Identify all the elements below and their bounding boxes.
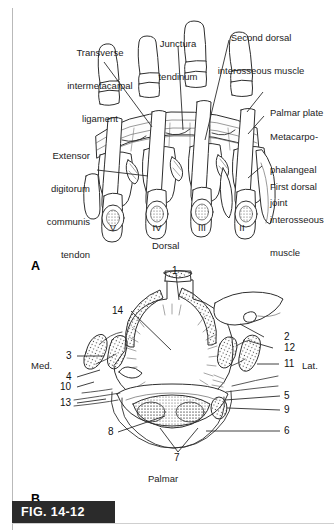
medial-fascia-strands (74, 389, 120, 406)
label-line: interosseous muscle (196, 65, 326, 76)
digit-numeral-v: V (106, 222, 120, 233)
callout-7: 7 (174, 452, 180, 463)
orientation-medial: Med. (31, 360, 52, 371)
second-dorsal-interosseous-muscle-shape (220, 168, 232, 218)
label-line: First dorsal (270, 181, 334, 192)
label-first-dorsal-interosseous-muscle: First dorsal interosseous muscle (270, 159, 334, 280)
callout-3: 3 (66, 350, 72, 361)
orientation-lateral: Lat. (302, 360, 318, 371)
callout-10: 10 (60, 381, 71, 392)
digit-numeral-iii: III (192, 222, 212, 233)
callout-14: 14 (112, 305, 123, 316)
label-line: Transverse (42, 47, 158, 58)
lateral-fascia-strand (226, 376, 278, 392)
callout-5: 5 (284, 390, 290, 401)
callout-8: 8 (108, 426, 114, 437)
leader-7-left (160, 428, 178, 452)
callout-13: 13 (60, 397, 71, 408)
panel-letter-a: A (31, 259, 40, 273)
figure-page: Transverse intermetacarpal ligament Junc… (0, 0, 334, 530)
leader-4 (77, 370, 100, 377)
caption-underline (12, 523, 334, 524)
figure-caption-bar: FIG. 14-12 (12, 501, 115, 523)
figure-number: FIG. 14-12 (12, 501, 115, 519)
bone-shaft-stump (164, 271, 192, 283)
label-line: Metacarpo- (270, 131, 334, 142)
digit-numeral-iv: IV (148, 222, 166, 233)
label-line: digitorum (12, 183, 90, 194)
label-line: tendon (12, 249, 90, 260)
callout-12: 12 (284, 342, 295, 353)
label-line: Second dorsal (196, 32, 326, 43)
lateral-muscle-mass (214, 292, 283, 325)
leader-10 (77, 382, 94, 387)
callout-6: 6 (284, 425, 290, 436)
orientation-palmar: Palmar (148, 473, 178, 484)
label-line: communis (12, 216, 90, 227)
callout-9: 9 (284, 404, 290, 415)
label-line: Extensor (12, 150, 90, 161)
orientation-dorsal: Dorsal (152, 240, 179, 251)
callout-11: 11 (284, 358, 294, 369)
leader-9 (228, 408, 280, 410)
label-line: muscle (270, 247, 334, 258)
lateral-sesamoid (211, 397, 227, 419)
label-line: ligament (42, 113, 158, 124)
label-line: intermetacarpal (42, 80, 158, 91)
callout-1: 1 (172, 265, 178, 276)
digit-numeral-ii: II (234, 222, 250, 233)
leader-7-right (178, 428, 198, 452)
label-extensor-digitorum-communis-tendon: Extensor digitorum communis tendon (12, 128, 90, 282)
callout-2: 2 (284, 331, 290, 342)
leader-5 (225, 396, 280, 400)
label-line: interosseous (270, 214, 334, 225)
